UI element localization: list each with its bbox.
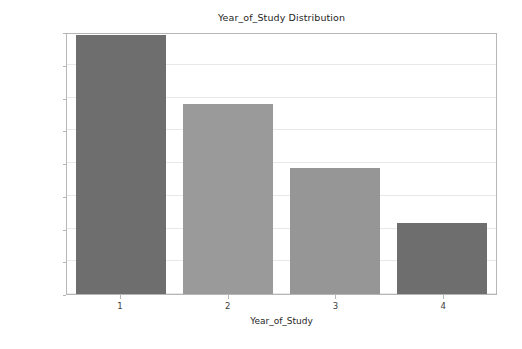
- bar-slot: [174, 34, 281, 294]
- x-tick-mark: [228, 295, 229, 299]
- y-tick-mark: [63, 230, 67, 231]
- y-tick-mark: [63, 131, 67, 132]
- plot-area: [66, 33, 497, 295]
- x-tick-mark: [120, 295, 121, 299]
- x-axis-label: Year_of_Study: [66, 316, 497, 326]
- bar[interactable]: [397, 223, 487, 294]
- bar-slot: [389, 34, 496, 294]
- x-axis-tick-labels: 1234: [66, 301, 497, 311]
- y-tick-mark: [63, 197, 67, 198]
- bar[interactable]: [183, 104, 273, 294]
- x-tick-mark: [335, 295, 336, 299]
- bar[interactable]: [76, 35, 166, 294]
- y-tick-mark: [63, 164, 67, 165]
- bar-slot: [282, 34, 389, 294]
- bar-slot: [67, 34, 174, 294]
- bar-series: [67, 34, 496, 294]
- y-tick-mark: [63, 99, 67, 100]
- y-tick-mark: [63, 262, 67, 263]
- bar[interactable]: [290, 168, 380, 294]
- y-tick-mark: [63, 33, 67, 34]
- x-tick-mark: [443, 295, 444, 299]
- x-tick-label: 2: [174, 301, 282, 311]
- y-tick-mark: [63, 295, 67, 296]
- x-tick-label: 1: [66, 301, 174, 311]
- bar-chart-figure: Year_of_Study Distribution count 0255075…: [0, 0, 522, 349]
- x-tick-label: 4: [389, 301, 497, 311]
- x-tick-label: 3: [282, 301, 390, 311]
- chart-title: Year_of_Study Distribution: [66, 12, 497, 23]
- y-tick-mark: [63, 66, 67, 67]
